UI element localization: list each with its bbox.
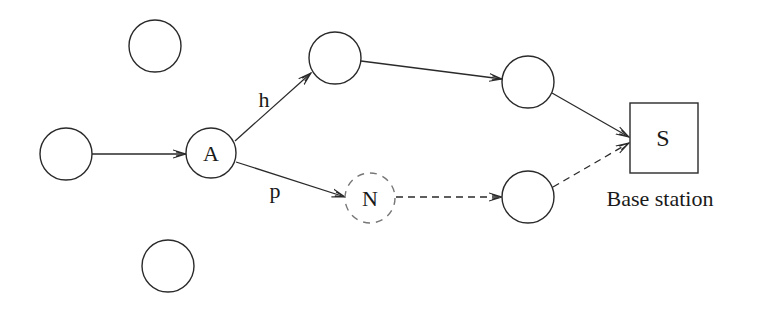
edge-B-to-C (361, 61, 502, 79)
node-D (502, 171, 554, 223)
node-isolated-bottom (142, 240, 194, 292)
node-A-label: A (203, 141, 219, 166)
edge-C-to-S (552, 93, 629, 137)
node-B (309, 32, 361, 84)
edge-D-to-S-dashed (553, 143, 629, 187)
edge-A-to-B-h (235, 73, 311, 141)
node-source (40, 128, 92, 180)
nodes (40, 20, 698, 292)
base-station-label: S (656, 125, 669, 151)
network-diagram: A N S Base station h p (0, 0, 760, 312)
node-C (502, 56, 554, 108)
base-station-caption: Base station (607, 186, 714, 211)
node-N-label: N (362, 186, 378, 211)
edge-label-p: p (270, 178, 281, 203)
edge-label-h: h (259, 87, 270, 112)
edge-A-to-N-p (236, 162, 345, 197)
node-isolated-top (129, 20, 181, 72)
